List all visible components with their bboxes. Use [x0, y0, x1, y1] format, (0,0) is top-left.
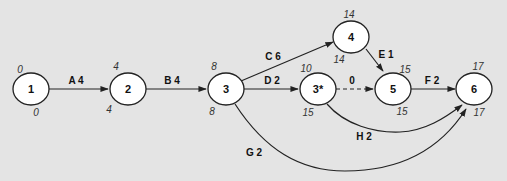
- node-5-earliest: 15: [399, 64, 411, 75]
- node-3-star: 3* 10 15: [300, 63, 336, 118]
- node-6-label: 6: [471, 83, 477, 95]
- edge-g: [235, 104, 466, 171]
- node-4-latest: 14: [333, 54, 345, 65]
- edge-label-c: C 6: [265, 51, 281, 62]
- node-1: 1 0 0: [13, 64, 49, 118]
- edge-label-f: F 2: [425, 75, 440, 86]
- node-6-earliest: 17: [472, 61, 484, 72]
- network-diagram: A 4 B 4 C 6 D 2 E 1 0 F 2 G 2 H 2 1 0 0 …: [0, 0, 507, 181]
- node-3-star-latest: 15: [302, 107, 314, 118]
- node-4-label: 4: [348, 31, 355, 43]
- edge-label-d: D 2: [264, 75, 280, 86]
- node-4: 4 14 14: [333, 9, 369, 65]
- node-3-star-label: 3*: [313, 83, 324, 95]
- node-3-label: 3: [223, 83, 229, 95]
- node-4-earliest: 14: [343, 9, 355, 20]
- node-3-latest: 8: [209, 106, 215, 117]
- node-6: 6 17 17: [456, 61, 492, 118]
- edge-label-g: G 2: [246, 147, 263, 158]
- edge-label-a: A 4: [68, 75, 84, 86]
- node-1-label: 1: [28, 83, 34, 95]
- node-5: 5 15 15: [375, 64, 411, 117]
- node-3-star-earliest: 10: [300, 63, 312, 74]
- node-2-earliest: 4: [113, 61, 119, 72]
- edge-label-h: H 2: [356, 131, 372, 142]
- node-2: 2 4 4: [106, 61, 146, 115]
- node-2-latest: 4: [106, 104, 112, 115]
- edge-h: [327, 104, 462, 132]
- node-2-label: 2: [125, 83, 131, 95]
- node-1-earliest: 0: [17, 64, 23, 75]
- node-5-label: 5: [390, 83, 396, 95]
- node-1-latest: 0: [33, 107, 39, 118]
- edge-label-b: B 4: [164, 75, 180, 86]
- node-6-latest: 17: [473, 107, 485, 118]
- node-3-earliest: 8: [211, 61, 217, 72]
- edge-label-dummy: 0: [349, 75, 355, 86]
- edge-label-e: E 1: [378, 49, 393, 60]
- node-5-latest: 15: [396, 106, 408, 117]
